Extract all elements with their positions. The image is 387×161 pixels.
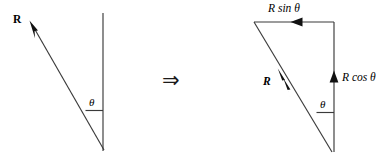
right-vertical-component-arrowhead: [330, 71, 339, 83]
right-resultant-label: R: [262, 75, 271, 87]
left-resultant-label: R: [13, 13, 22, 25]
right-vertical-component-label: R cos θ: [341, 71, 376, 83]
left-resultant-vector-shaft: [34, 27, 105, 150]
left-angle-label: θ: [89, 96, 95, 108]
right-resultant-vector-shaft: [254, 22, 332, 152]
left-diagram-group: R θ: [13, 13, 104, 151]
right-horizontal-component-arrowhead: [291, 18, 303, 27]
implies-arrow-icon: ⇒: [162, 68, 180, 92]
vector-diagram-canvas: R θ ⇒ R sin θ: [0, 0, 387, 161]
right-horizontal-component-label: R sin θ: [267, 2, 300, 14]
right-diagram-group: R sin θ R cos θ R θ: [254, 2, 376, 152]
left-resultant-arrowhead: [30, 21, 39, 39]
vector-decomposition-figure: R θ ⇒ R sin θ: [0, 0, 387, 161]
right-angle-label: θ: [320, 98, 326, 110]
